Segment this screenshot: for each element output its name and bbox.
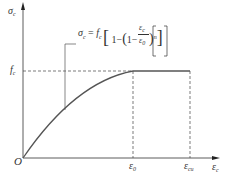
fraction-numerator: εc bbox=[139, 24, 145, 33]
eps0-label: ε0 bbox=[129, 161, 136, 172]
equation-close: )n] bbox=[149, 27, 163, 48]
fc-label: fc bbox=[10, 65, 15, 76]
origin-label: O bbox=[14, 156, 22, 167]
fraction-bar bbox=[138, 34, 149, 35]
x-axis-arrow-icon bbox=[212, 156, 220, 160]
equation: σc = fc bbox=[78, 27, 102, 40]
parabolic-curve bbox=[23, 71, 133, 158]
equation-bracket-content: [ 1−(1− bbox=[103, 27, 137, 48]
stress-strain-diagram: σc εc O fc ε0 εcu σc = fc [ 1−(1− εc ε0 … bbox=[0, 0, 231, 180]
y-axis-arrow-icon bbox=[21, 2, 25, 10]
x-axis-label: εc bbox=[212, 162, 219, 173]
epscu-label: εcu bbox=[184, 161, 194, 172]
fraction-denominator: ε0 bbox=[139, 37, 145, 46]
y-axis-label: σc bbox=[8, 6, 16, 17]
